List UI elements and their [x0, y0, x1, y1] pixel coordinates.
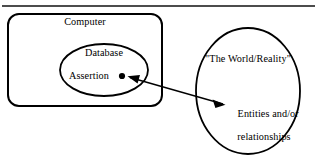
arrowhead-right-icon [213, 100, 226, 108]
assertion-to-entities-arrow [130, 78, 223, 105]
entities-label-line2: relationships [227, 131, 301, 142]
computer-label: Computer [0, 16, 170, 27]
assertion-label: Assertion [58, 70, 120, 81]
entities-label-line1: Entities and/or [238, 108, 299, 119]
arrowhead-left-icon [128, 75, 141, 83]
computer-boundary-shape [8, 14, 162, 106]
database-label: Database [58, 47, 150, 58]
diagram-canvas: Computer Database Assertion "The World/R… [0, 0, 317, 162]
world-reality-label: "The World/Reality" [196, 53, 300, 64]
entities-label: Entities and/or relationships [227, 97, 313, 162]
